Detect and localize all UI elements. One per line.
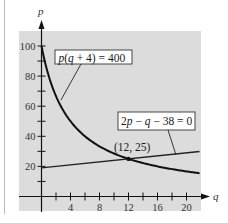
y-tick-label: 40 [25, 131, 36, 142]
intersection-label: (12, 25) [114, 141, 151, 154]
supply-equation-label: 2p − q − 38 = 0 [121, 115, 192, 128]
y-tick-label: 100 [20, 41, 36, 52]
x-tick-label: 12 [123, 202, 134, 213]
x-tick-label: 8 [97, 202, 102, 213]
y-axis-arrow-icon [39, 20, 45, 29]
y-tick-label: 20 [25, 161, 36, 172]
y-axis-label: p [37, 5, 44, 17]
intersection-point [126, 157, 130, 161]
x-tick-label: 4 [68, 202, 74, 213]
chart: 48121620 20406080100 p q (12, 25) p(q + … [0, 0, 228, 223]
x-axis-arrow-icon [201, 194, 210, 200]
x-tick-label: 16 [152, 202, 163, 213]
y-tick-label: 60 [25, 101, 36, 112]
x-tick-label: 20 [181, 202, 192, 213]
x-axis-label: q [213, 190, 219, 202]
y-tick-label: 80 [25, 71, 36, 82]
demand-equation-label: p(q + 4) = 400 [58, 52, 126, 65]
